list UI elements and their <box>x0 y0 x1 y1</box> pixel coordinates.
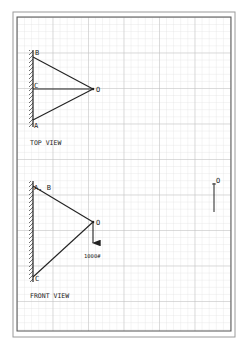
label-c: C <box>35 275 39 283</box>
label-o: O <box>96 86 100 94</box>
caption-front-view: FRONT VIEW <box>30 292 69 300</box>
diagram-canvas: B C A O TOP VIEW A, B C O 1000# FRONT VI… <box>0 0 242 349</box>
label-ab: A, B <box>34 184 51 192</box>
label-o: O <box>216 177 220 185</box>
grid <box>17 17 231 331</box>
joint-o <box>92 88 95 91</box>
label-o: O <box>96 219 100 227</box>
label-c: C <box>34 82 38 90</box>
caption-top-view: TOP VIEW <box>30 139 61 147</box>
label-b: B <box>35 49 39 57</box>
load-label: 1000# <box>84 253 101 259</box>
graph-paper-sheet: B C A O TOP VIEW A, B C O 1000# FRONT VI… <box>0 0 242 349</box>
